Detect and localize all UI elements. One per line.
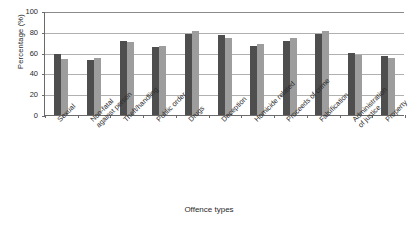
x-axis-title: Offence types: [0, 205, 418, 214]
bar: [250, 46, 257, 115]
y-tick-label-1: 20: [30, 91, 38, 99]
bar: [257, 44, 264, 115]
plot-area: [44, 12, 404, 116]
bar: [348, 53, 355, 115]
y-tick-label-2: 40: [30, 71, 38, 79]
bar: [290, 38, 297, 115]
y-tick-label-4: 80: [30, 29, 38, 37]
bar: [315, 34, 322, 115]
x-axis-tick-11: [405, 115, 406, 118]
bar: [87, 60, 94, 115]
x-axis-category-labels: SexualNon-fatalagainst personTheft/handl…: [44, 118, 404, 204]
bar-chart: Percentage (%) 020406080100 SexualNon-fa…: [0, 0, 418, 227]
y-axis-tick-labels: 020406080100: [12, 12, 38, 116]
y-tick-label-5: 100: [25, 8, 38, 16]
y-tick-label-3: 60: [30, 50, 38, 58]
bar-group: [45, 12, 78, 115]
bar: [283, 41, 290, 115]
bar: [54, 54, 61, 115]
bar: [218, 35, 225, 115]
y-tick-label-0: 0: [34, 112, 38, 120]
bar-series-container: [45, 12, 404, 115]
bar: [185, 34, 192, 115]
bar: [192, 31, 199, 115]
bar: [152, 47, 159, 115]
bar: [225, 38, 232, 115]
bar: [322, 31, 329, 115]
